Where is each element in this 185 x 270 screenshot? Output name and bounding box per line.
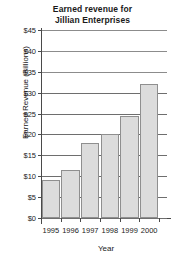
- bar: [101, 134, 119, 218]
- x-axis-tick: [139, 218, 140, 222]
- x-axis-tick-label: 1995: [42, 226, 59, 235]
- x-axis-title: Year: [41, 244, 171, 253]
- x-axis-tick: [159, 218, 160, 222]
- bar-series: [41, 30, 159, 218]
- bar: [140, 84, 158, 218]
- x-axis-tick-label: 1996: [62, 226, 79, 235]
- plot-area: [41, 30, 159, 218]
- y-axis-tick-label: $5: [0, 193, 36, 202]
- y-axis-tick-label: $10: [0, 172, 36, 181]
- y-axis-tick-label: $30: [0, 88, 36, 97]
- bar: [61, 170, 79, 218]
- bar: [42, 180, 60, 218]
- y-axis-tick-label: $15: [0, 151, 36, 160]
- x-axis-tick-label: 2000: [141, 226, 158, 235]
- y-axis-tick-label: $45: [0, 26, 36, 35]
- x-axis-tick: [61, 218, 62, 222]
- x-axis-tick-label: 1997: [82, 226, 99, 235]
- bar-chart: Earned revenue for Jillian Enterprises E…: [0, 0, 185, 270]
- x-axis-tick: [120, 218, 121, 222]
- y-axis-tick-label: $20: [0, 130, 36, 139]
- x-axis-tick: [41, 218, 42, 222]
- y-axis-tick-label: $25: [0, 109, 36, 118]
- x-axis-tick-label: 1999: [121, 226, 138, 235]
- y-axis-tick-label: $40: [0, 46, 36, 55]
- bar: [81, 143, 99, 218]
- y-axis-tick-label: $35: [0, 67, 36, 76]
- x-axis-tick: [80, 218, 81, 222]
- x-axis-tick-label: 1998: [101, 226, 118, 235]
- x-axis-tick: [100, 218, 101, 222]
- bar: [120, 116, 138, 218]
- y-axis-tick-label: $0: [0, 214, 36, 223]
